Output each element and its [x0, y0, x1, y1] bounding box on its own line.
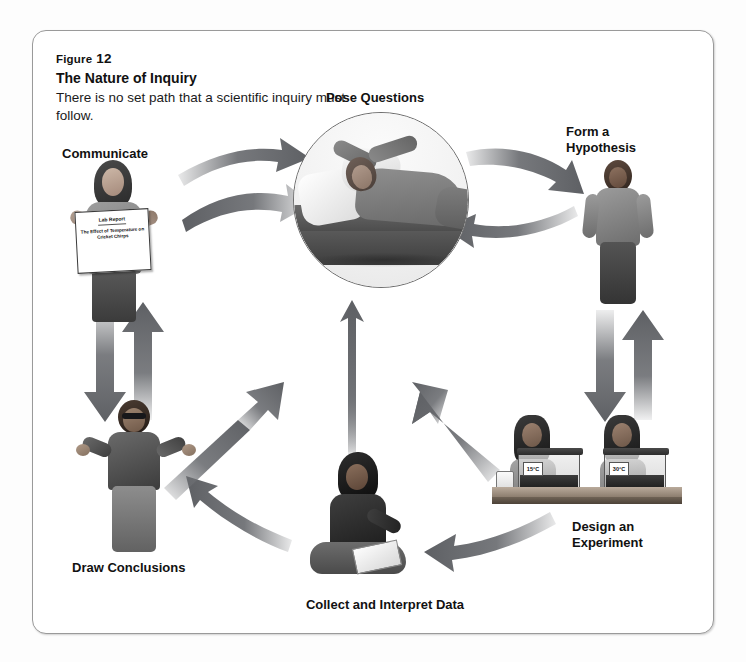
photo-design-experiment: 15°C 30°C [492, 415, 682, 515]
scene-shadow [314, 253, 454, 267]
communicate-legs-shape [92, 268, 136, 322]
cricket-tank-right-temp-label: 30°C [609, 462, 629, 476]
hypothesis-legs-shape [600, 242, 636, 304]
photo-pose-questions [293, 112, 469, 288]
communicate-face-shape [102, 168, 124, 196]
collect-data-face-shape [346, 464, 368, 490]
label-design-experiment: Design an Experiment [572, 519, 692, 551]
label-collect-data: Collect and Interpret Data [285, 597, 485, 613]
cricket-tank-left-lid [517, 448, 583, 455]
photo-collect-data [300, 452, 420, 592]
pose-questions-scene [294, 113, 468, 287]
figure-number-prefix: Figure [56, 53, 92, 65]
photo-form-hypothesis [576, 160, 666, 305]
lab-student-right-face-shape [612, 423, 632, 447]
sunglasses-shape [122, 413, 146, 419]
conclusions-hand-right-shape [182, 444, 196, 456]
cricket-tank-left-soil [520, 475, 578, 487]
figure-caption-block: Figure 12 The Nature of Inquiry There is… [56, 50, 356, 125]
lab-report-divider [98, 223, 126, 225]
lab-report-poster: Lab Report The Effect of Temperature on … [74, 208, 151, 274]
cricket-tank-right: 30°C [604, 453, 666, 489]
conclusions-hand-left-shape [76, 444, 90, 456]
label-draw-conclusions: Draw Conclusions [72, 560, 232, 576]
conclusions-face-shape [123, 408, 145, 432]
hypothesis-torso-shape [596, 188, 640, 246]
conclusions-legs-shape [112, 486, 156, 552]
lab-table-edge-shape [492, 497, 682, 504]
label-communicate: Communicate [62, 146, 202, 162]
figure-root: Figure 12 The Nature of Inquiry There is… [0, 0, 746, 662]
conclusions-torso-shape [108, 432, 160, 490]
photo-communicate: Lab Report The Effect of Temperature on … [60, 160, 170, 320]
figure-title: The Nature of Inquiry [56, 69, 356, 88]
cricket-tank-right-lid [603, 448, 669, 455]
hypothesis-face-shape [609, 167, 627, 188]
lab-student-left-face-shape [522, 423, 542, 447]
label-pose-questions: Pose Questions [305, 90, 445, 106]
figure-number-value: 12 [96, 51, 111, 66]
figure-number: Figure 12 [56, 50, 356, 68]
cricket-tank-left-temp-label: 15°C [523, 462, 543, 476]
photo-draw-conclusions [82, 400, 192, 555]
lab-report-subtitle: The Effect of Temperature on Cricket Chi… [76, 226, 148, 241]
lab-table-top-shape [492, 487, 682, 497]
lab-report-title: Lab Report [76, 214, 148, 224]
cricket-tank-left: 15°C [518, 453, 580, 489]
cricket-tank-right-soil [606, 475, 664, 487]
label-form-hypothesis: Form a Hypothesis [566, 124, 676, 156]
